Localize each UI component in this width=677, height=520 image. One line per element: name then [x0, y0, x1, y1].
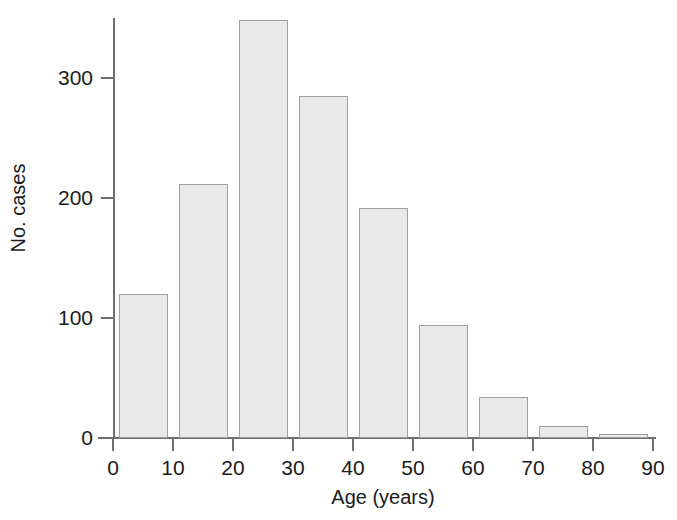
bar-70-80 [539, 426, 588, 438]
x-tick-label-40: 40 [328, 457, 378, 478]
x-tick-40 [352, 439, 354, 451]
x-tick-90 [652, 439, 654, 451]
y-tick-200 [101, 197, 113, 199]
bar-60-70 [479, 397, 528, 438]
x-tick-label-10: 10 [148, 457, 198, 478]
histogram-figure: 0100200300 0102030405060708090 No. cases… [0, 0, 677, 520]
bar-80-90 [599, 434, 648, 438]
y-tick-label-300: 300 [33, 67, 93, 88]
bar-20-30 [239, 20, 288, 438]
bars-layer [113, 18, 653, 438]
bar-50-60 [419, 325, 468, 438]
bar-30-40 [299, 96, 348, 438]
x-tick-label-60: 60 [448, 457, 498, 478]
x-tick-label-30: 30 [268, 457, 318, 478]
x-tick-label-20: 20 [208, 457, 258, 478]
bar-0-10 [119, 294, 168, 438]
bar-10-20 [179, 184, 228, 438]
x-tick-0 [112, 439, 114, 451]
x-tick-label-50: 50 [388, 457, 438, 478]
x-tick-70 [532, 439, 534, 451]
y-tick-100 [101, 317, 113, 319]
x-tick-10 [172, 439, 174, 451]
y-axis-title: No. cases [8, 128, 28, 288]
x-tick-20 [232, 439, 234, 451]
x-tick-label-70: 70 [508, 457, 558, 478]
x-tick-label-80: 80 [568, 457, 618, 478]
x-tick-50 [412, 439, 414, 451]
y-tick-label-0: 0 [33, 427, 93, 448]
y-tick-label-200: 200 [33, 187, 93, 208]
x-tick-80 [592, 439, 594, 451]
x-tick-30 [292, 439, 294, 451]
y-tick-300 [101, 77, 113, 79]
x-axis-title: Age (years) [113, 487, 653, 507]
x-tick-label-0: 0 [88, 457, 138, 478]
bar-40-50 [359, 208, 408, 438]
x-tick-label-90: 90 [628, 457, 677, 478]
y-tick-label-100: 100 [33, 307, 93, 328]
x-tick-60 [472, 439, 474, 451]
